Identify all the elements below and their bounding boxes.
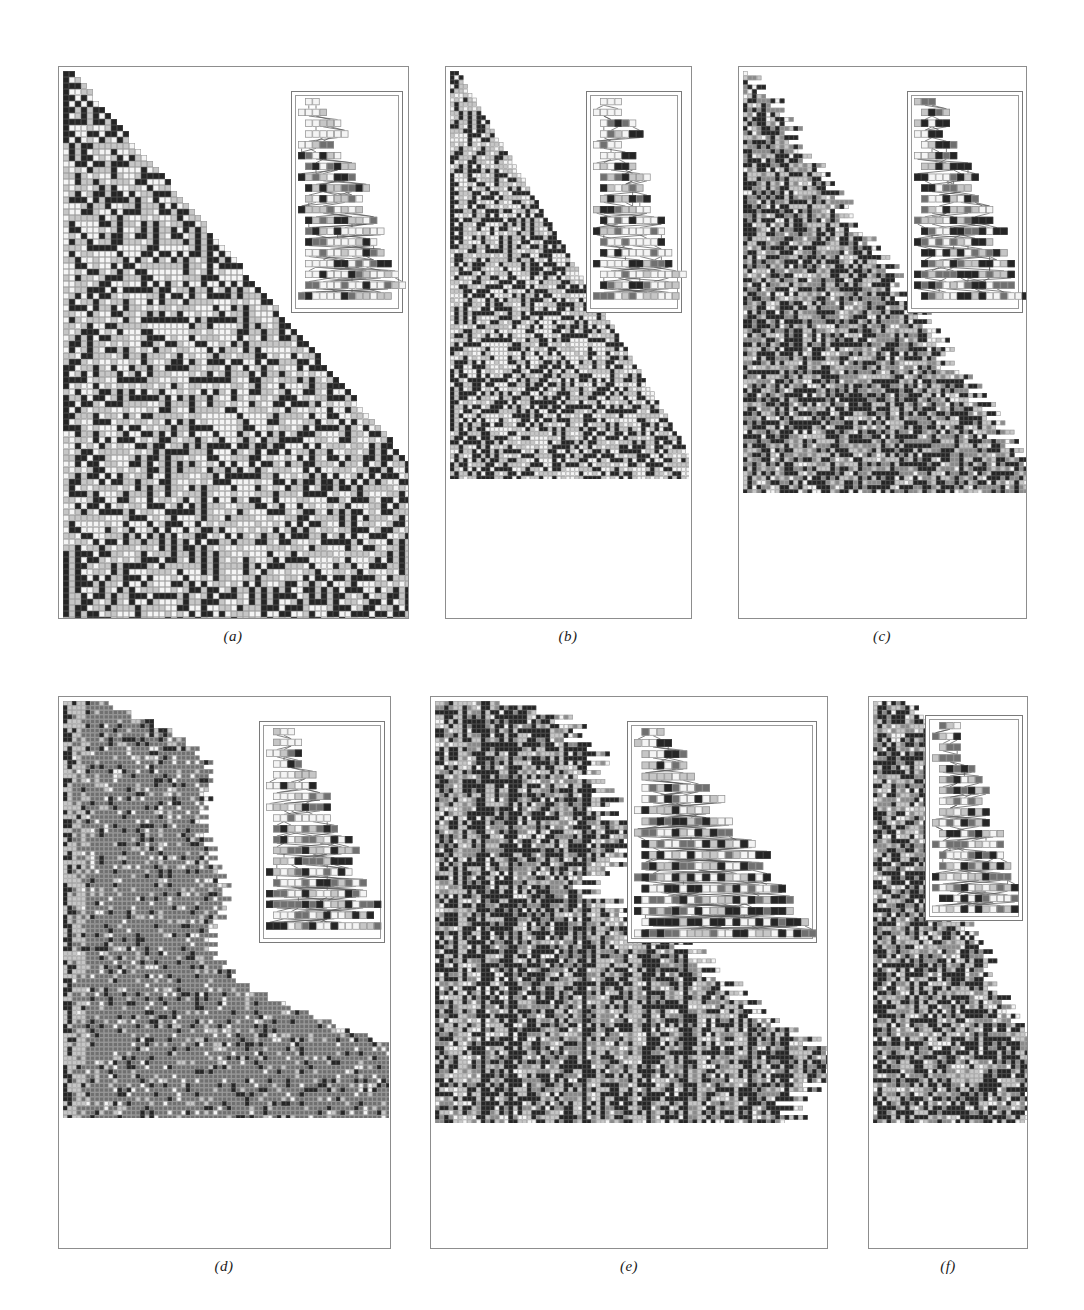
panel-caption-b: (b) [528,628,608,645]
panel-caption-d: (d) [184,1258,264,1275]
panel-f [868,696,1028,1249]
inset-detail-f [925,715,1023,921]
panel-d [58,696,391,1249]
inset-detail-e [627,721,817,943]
inset-generation-trace-f [930,720,1027,923]
panel-a-plot-area [59,67,408,618]
panel-d-plot-area [59,697,390,1248]
panel-caption-e: (e) [589,1258,669,1275]
inset-detail-c [907,91,1023,313]
panel-e-plot-area [431,697,827,1248]
inset-generation-trace-d [264,726,390,940]
figure-root: (a)(b)(c)(d)(e)(f) [0,0,1084,1310]
panel-a [58,66,409,619]
panel-e [430,696,828,1249]
panel-caption-c: (c) [842,628,922,645]
panel-b-plot-area [446,67,691,618]
panel-c-plot-area [739,67,1026,618]
panel-c [738,66,1027,619]
panel-b [445,66,692,619]
inset-generation-trace-c [912,96,1026,310]
panel-caption-a: (a) [193,628,273,645]
inset-detail-a [291,91,403,313]
inset-generation-trace-e [632,726,827,947]
panel-f-plot-area [869,697,1027,1248]
inset-detail-b [586,91,682,313]
inset-detail-d [259,721,385,943]
panel-caption-f: (f) [908,1258,988,1275]
inset-generation-trace-a [296,96,408,310]
inset-generation-trace-b [591,96,690,310]
